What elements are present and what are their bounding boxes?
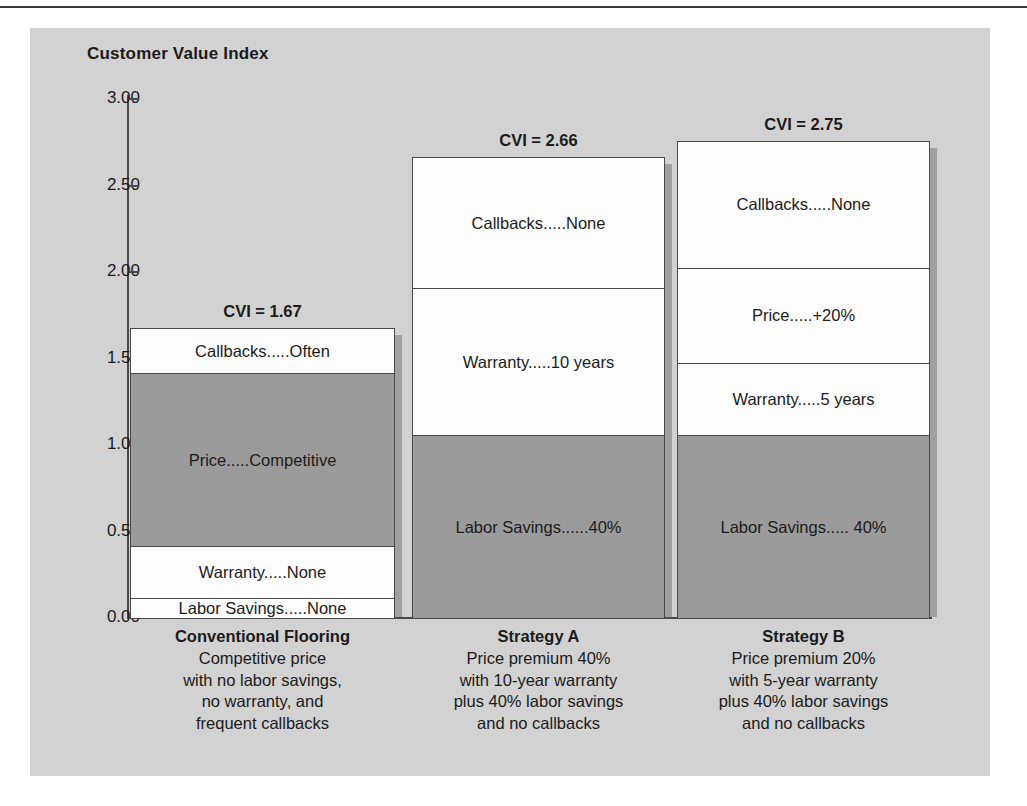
- bar-caption-line: and no callbacks: [394, 713, 683, 734]
- bar-caption-line: plus 40% labor savings: [659, 691, 948, 712]
- y-axis-tick-mark: [129, 185, 139, 187]
- bar-segment[interactable]: Labor Savings.....None: [131, 599, 394, 618]
- bar-caption-title: Strategy A: [394, 626, 683, 647]
- bar-segment[interactable]: Warranty.....5 years: [678, 364, 929, 437]
- bar-total-label: CVI = 2.66: [412, 131, 665, 150]
- bar-caption-line: Competitive price: [112, 648, 413, 669]
- bar-caption-line: with no labor savings,: [112, 670, 413, 691]
- bar-caption-line: plus 40% labor savings: [394, 691, 683, 712]
- bar-segment[interactable]: Price.....Competitive: [131, 374, 394, 547]
- bar-segment[interactable]: Price.....+20%: [678, 269, 929, 364]
- bar-total-label: CVI = 2.75: [677, 115, 930, 134]
- bar-caption-line: frequent callbacks: [112, 713, 413, 734]
- bar-segment[interactable]: Callbacks.....None: [413, 158, 664, 289]
- bar-caption: Conventional FlooringCompetitive pricewi…: [112, 626, 413, 734]
- bar-segment[interactable]: Callbacks.....Often: [131, 329, 394, 374]
- bar-shadow: [665, 164, 672, 617]
- bar-caption-line: Price premium 40%: [394, 648, 683, 669]
- bar-segment[interactable]: Callbacks.....None: [678, 142, 929, 268]
- bar-caption-line: with 5-year warranty: [659, 670, 948, 691]
- y-axis-tick-mark: [129, 271, 139, 273]
- chart-panel: Customer Value Index 3.002.502.001.501.0…: [30, 28, 990, 776]
- stacked-bar[interactable]: Callbacks.....NonePrice.....+20%Warranty…: [677, 141, 930, 617]
- bar-segment[interactable]: Warranty.....10 years: [413, 289, 664, 436]
- bar-caption-title: Strategy B: [659, 626, 948, 647]
- bar-segment[interactable]: Warranty.....None: [131, 547, 394, 599]
- bar-caption-line: Price premium 20%: [659, 648, 948, 669]
- bar-caption-line: no warranty, and: [112, 691, 413, 712]
- bar-shadow: [930, 148, 937, 617]
- bar-caption-line: with 10-year warranty: [394, 670, 683, 691]
- bar-segment[interactable]: Labor Savings......40%: [413, 436, 664, 618]
- bar-total-label: CVI = 1.67: [130, 302, 395, 321]
- stacked-bar[interactable]: Callbacks.....OftenPrice.....Competitive…: [130, 328, 395, 617]
- chart-page: Customer Value Index 3.002.502.001.501.0…: [0, 0, 1027, 806]
- bar-segment[interactable]: Labor Savings..... 40%: [678, 436, 929, 618]
- top-divider: [0, 6, 1027, 8]
- bar-caption: Strategy APrice premium 40%with 10-year …: [394, 626, 683, 734]
- plot-area: Customer Value Index 3.002.502.001.501.0…: [30, 28, 990, 776]
- stacked-bar[interactable]: Callbacks.....NoneWarranty.....10 yearsL…: [412, 157, 665, 617]
- chart-title: Customer Value Index: [87, 44, 269, 64]
- y-axis-tick-mark: [129, 98, 139, 100]
- bar-shadow: [395, 335, 402, 617]
- bar-caption-title: Conventional Flooring: [112, 626, 413, 647]
- bar-caption: Strategy BPrice premium 20%with 5-year w…: [659, 626, 948, 734]
- bar-caption-line: and no callbacks: [659, 713, 948, 734]
